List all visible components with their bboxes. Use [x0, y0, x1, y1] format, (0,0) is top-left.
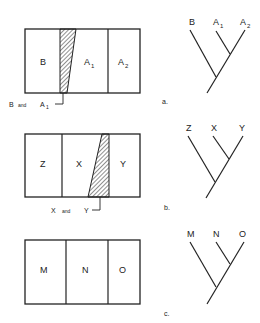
- overlap-label-right-sub: 1: [46, 104, 49, 110]
- region-label-b: B: [40, 57, 46, 67]
- overlap-label-left: B: [9, 101, 14, 108]
- leaf-sub-a1: 1: [220, 23, 224, 29]
- overlap-callout-b: X and Y: [51, 197, 100, 214]
- overlap-region-x-y: [88, 134, 109, 197]
- overlap-label-and: and: [62, 208, 71, 214]
- region-label-a2: A: [118, 57, 124, 67]
- branch-o-root: [207, 242, 244, 304]
- branch-n: [216, 242, 230, 264]
- callout-leader-b: [92, 197, 100, 210]
- branch-b: [190, 30, 216, 77]
- branch-m: [190, 242, 216, 287]
- overlap-region-b-a1: [60, 29, 76, 93]
- overlap-label-right: A: [40, 101, 45, 108]
- region-label-a1: A: [84, 57, 90, 67]
- callout-leader-a: [55, 93, 63, 104]
- leaf-label-b: B: [189, 17, 195, 27]
- panel-caption-c: c.: [164, 310, 170, 317]
- diagram-canvas: B A 1 A 2 B and A 1 a. B A 1 A 2: [0, 0, 260, 323]
- overlap-callout-a: B and A 1: [9, 93, 63, 110]
- area-map-c: M N O: [25, 240, 140, 304]
- overlap-label-right: Y: [84, 207, 89, 214]
- cladogram-b: Z X Y: [186, 123, 245, 198]
- cladogram-a: B A 1 A 2: [189, 17, 251, 93]
- region-label-o: O: [119, 265, 126, 275]
- region-label-x: X: [76, 159, 82, 169]
- branch-a1: [216, 31, 230, 54]
- branch-z: [188, 136, 215, 182]
- region-label-z: Z: [40, 159, 46, 169]
- branch-a2-root: [207, 30, 245, 93]
- leaf-label-x: X: [211, 123, 217, 133]
- panel-c: M N O c. M N O: [25, 229, 246, 317]
- region-label-n: N: [82, 265, 89, 275]
- region-label-y: Y: [120, 159, 126, 169]
- region-sub-a1: 1: [91, 63, 95, 69]
- overlap-label-left: X: [51, 207, 56, 214]
- panel-a: B A 1 A 2 B and A 1 a. B A 1 A 2: [9, 17, 251, 110]
- region-sub-a2: 2: [125, 63, 129, 69]
- region-label-m: M: [40, 265, 48, 275]
- leaf-label-a2: A: [240, 17, 246, 27]
- overlap-label-and: and: [18, 102, 27, 108]
- panel-b: Z X Y X and Y b. Z X Y: [25, 123, 245, 214]
- branch-x: [213, 136, 229, 159]
- panel-caption-b: b.: [164, 204, 170, 211]
- leaf-label-o: O: [239, 229, 246, 239]
- leaf-label-a1: A: [213, 17, 219, 27]
- branch-y-root: [206, 136, 243, 198]
- leaf-label-y: Y: [239, 123, 245, 133]
- leaf-sub-a2: 2: [247, 23, 251, 29]
- area-map-b: Z X Y: [25, 134, 140, 197]
- cladogram-c: M N O: [187, 229, 246, 304]
- area-map-a: B A 1 A 2: [25, 29, 140, 93]
- leaf-label-m: M: [187, 229, 195, 239]
- leaf-label-n: N: [213, 229, 220, 239]
- panel-caption-a: a.: [162, 98, 168, 105]
- leaf-label-z: Z: [186, 123, 192, 133]
